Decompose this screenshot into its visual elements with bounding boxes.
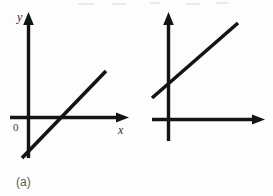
origin-label-a: 0 [13,122,19,133]
panel-b: y x 0 (b) [137,0,273,196]
panel-b-plot [137,0,273,196]
panel-caption-a: (a) [16,176,31,188]
panel-a-plot [0,0,137,196]
x-axis-arrowhead-a [116,112,129,122]
data-line-a [22,71,106,158]
figure-container: y x 0 (a) y x 0 (b) [0,0,273,196]
panel-a: y x 0 (a) [0,0,137,196]
y-axis-arrowhead-a [23,12,34,25]
x-axis-label-a: x [118,124,123,136]
y-axis-arrowhead-b [163,12,174,25]
data-line-b [152,23,238,98]
x-axis-arrowhead-b [252,114,265,124]
y-axis-label-a: y [17,11,22,23]
